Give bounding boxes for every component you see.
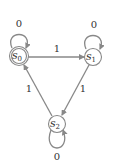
transition-s0-s0: 0 bbox=[11, 18, 28, 48]
state-s0: s0 bbox=[10, 47, 29, 66]
state-s1: s1 bbox=[85, 49, 102, 66]
transition-s1-s1: 0 bbox=[85, 19, 102, 49]
transition-label: 1 bbox=[26, 83, 32, 94]
state-s2: s2 bbox=[49, 116, 66, 133]
transition-label: 1 bbox=[54, 43, 60, 54]
transition-s2-s2: 0 bbox=[49, 130, 64, 162]
transition-label: 1 bbox=[80, 83, 86, 94]
transition-label: 0 bbox=[16, 18, 22, 29]
transition-label: 0 bbox=[91, 19, 97, 30]
transition-s1-s2: 1 bbox=[62, 65, 89, 115]
state-diagram: 0 1 0 1 0 1 s0 bbox=[0, 0, 113, 165]
transition-s2-s0: 1 bbox=[24, 65, 52, 116]
transition-label: 0 bbox=[54, 151, 60, 162]
self-loop-edge bbox=[85, 36, 102, 50]
transition-s0-s1: 1 bbox=[28, 43, 84, 57]
